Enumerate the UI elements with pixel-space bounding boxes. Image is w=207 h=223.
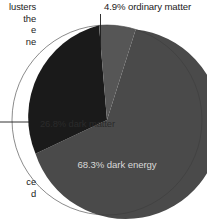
margin-text-line: lusters bbox=[0, 1, 36, 13]
margin-text-top-block: lusters the e ne bbox=[0, 1, 36, 47]
margin-text-line: ne bbox=[0, 36, 36, 48]
margin-text-bottom-block: ce d bbox=[0, 176, 36, 199]
margin-text-line: the bbox=[0, 13, 36, 25]
slice-label-dark-matter: 26.8% dark matter bbox=[40, 118, 110, 130]
margin-text-line: e bbox=[0, 24, 36, 36]
pie-chart-figure: 4.9% ordinary matter 68.3% dark energy 2… bbox=[0, 0, 207, 223]
slice-label-dark-energy: 68.3% dark energy bbox=[62, 159, 172, 171]
margin-text-line: ce bbox=[0, 176, 36, 188]
slice-label-ordinary-matter: 4.9% ordinary matter bbox=[104, 1, 191, 13]
margin-text-line: d bbox=[0, 188, 36, 200]
